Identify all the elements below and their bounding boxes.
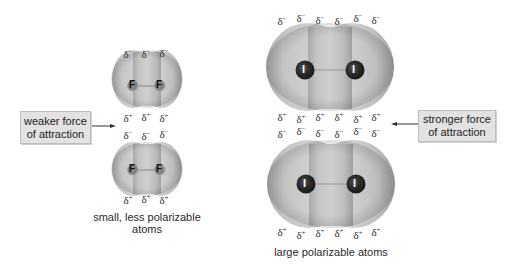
delta-plus: δ+ — [141, 193, 150, 205]
delta-minus: δ− — [353, 12, 362, 24]
i2-molecule-bottom — [267, 140, 395, 228]
stronger-arrow — [391, 122, 418, 126]
delta-minus: δ− — [334, 15, 343, 27]
delta-plus: δ+ — [159, 112, 168, 124]
stronger-force-line1: stronger force — [423, 113, 491, 126]
left-caption-line1: small, less polarizable — [93, 211, 201, 223]
delta-minus: δ− — [123, 129, 132, 141]
f-atom-label: F — [129, 79, 135, 90]
f-atom-label: F — [129, 163, 135, 174]
delta-minus: δ− — [315, 14, 324, 26]
delta-plus: δ+ — [159, 194, 168, 206]
weaker-force-line1: weaker force — [24, 115, 87, 128]
delta-minus: δ− — [296, 12, 305, 24]
delta-plus: δ+ — [277, 226, 286, 238]
weaker-force-line2: of attraction — [27, 128, 84, 141]
delta-plus: δ+ — [353, 229, 362, 241]
delta-minus: δ− — [277, 128, 286, 140]
left-caption: small, less polarizable atoms — [93, 211, 201, 235]
weaker-arrow — [90, 124, 116, 128]
i-atom-label: I — [352, 63, 355, 75]
weaker-force-callout: weaker force of attraction — [20, 111, 91, 144]
delta-minus: δ− — [353, 125, 362, 137]
delta-minus: δ− — [296, 125, 305, 137]
i2-molecule-top — [266, 23, 394, 111]
i-atom-label: I — [353, 177, 356, 189]
delta-plus: δ+ — [123, 112, 132, 124]
delta-plus: δ+ — [296, 113, 305, 125]
delta-plus: δ+ — [371, 111, 380, 123]
delta-plus: δ+ — [315, 111, 324, 123]
delta-plus: δ+ — [296, 229, 305, 241]
f-atom-label: F — [156, 163, 162, 174]
right-caption: large polarizable atoms — [274, 246, 388, 258]
delta-plus: δ+ — [315, 227, 324, 239]
delta-minus: δ− — [315, 127, 324, 139]
delta-minus: δ− — [371, 127, 380, 139]
f2-molecule-bottom — [111, 142, 183, 196]
i-atom-label: I — [302, 63, 305, 75]
delta-plus: δ+ — [371, 226, 380, 238]
delta-minus: δ− — [159, 47, 168, 59]
stronger-force-callout: stronger force of attraction — [418, 110, 496, 142]
delta-minus: δ− — [159, 128, 168, 140]
delta-plus: δ+ — [334, 111, 343, 123]
delta-plus: δ+ — [123, 194, 132, 206]
right-caption-text: large polarizable atoms — [274, 246, 388, 258]
left-caption-line2: atoms — [93, 223, 201, 235]
stronger-force-line2: of attraction — [428, 126, 485, 139]
delta-minus: δ− — [334, 128, 343, 140]
delta-minus: δ− — [371, 14, 380, 26]
f-atom-label: F — [156, 79, 162, 90]
delta-minus: δ− — [141, 48, 150, 60]
delta-plus: δ+ — [141, 111, 150, 123]
delta-plus: δ+ — [353, 113, 362, 125]
delta-minus: δ− — [123, 48, 132, 60]
delta-plus: δ+ — [334, 227, 343, 239]
i-atom-label: I — [303, 177, 306, 189]
delta-minus: δ− — [277, 15, 286, 27]
delta-minus: δ− — [141, 130, 150, 142]
delta-plus: δ+ — [277, 111, 286, 123]
